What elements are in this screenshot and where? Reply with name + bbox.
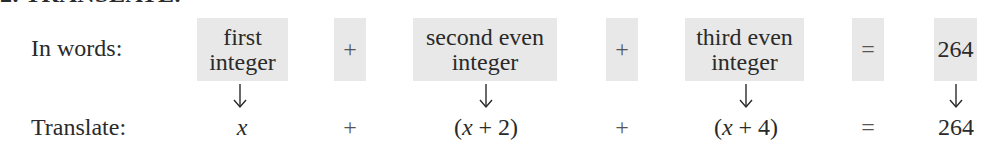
word-box-264: 264 [934,18,977,81]
translate-first-integer: x [237,114,248,141]
word-line: 264 [938,37,974,62]
equals-symbol: = [861,37,875,62]
down-arrow-icon [946,82,966,110]
number: 4 [758,114,770,140]
word-line: second even [426,25,544,50]
word-line: integer [696,50,793,75]
in-words-label: In words: [31,35,122,62]
translate-plus-1: + [343,114,357,141]
word-box-second-even-integer: second even integer [413,18,557,81]
translate-plus-2: + [615,114,629,141]
variable-x: x [722,114,733,140]
word-box-first-integer: first integer [197,18,288,81]
open-paren: ( [714,114,722,140]
variable-x: x [237,114,248,140]
plus-symbol: + [343,37,357,62]
plus-symbol: + [739,114,753,140]
down-arrow-icon [476,82,496,110]
translate-label: Translate: [31,114,126,141]
plus-symbol: + [615,37,629,62]
word-box-plus-2: + [606,18,638,81]
plus-symbol: + [479,114,493,140]
translate-equals: = [861,114,875,141]
word-box-equals: = [852,18,884,81]
word-line: first [209,25,276,50]
word-line: integer [426,50,544,75]
close-paren: ) [510,114,518,140]
word-line: third even [696,25,793,50]
section-title: 2. TRANSLATE. [0,0,181,8]
open-paren: ( [454,114,462,140]
translate-third-even-integer: (x + 4) [714,114,778,141]
word-line: integer [209,50,276,75]
down-arrow-icon [736,82,756,110]
number: 2 [498,114,510,140]
close-paren: ) [770,114,778,140]
translate-264: 264 [938,114,974,141]
variable-x: x [462,114,473,140]
down-arrow-icon [230,82,250,110]
translate-second-even-integer: (x + 2) [454,114,518,141]
word-box-plus-1: + [334,18,366,81]
word-box-third-even-integer: third even integer [685,18,804,81]
